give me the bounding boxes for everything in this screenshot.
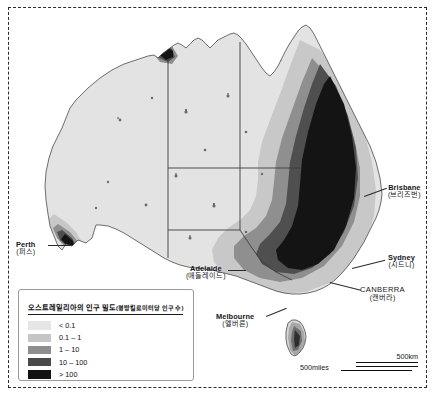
city-label-perth: Perth (퍼스)	[16, 241, 35, 257]
scale-bar-miles	[341, 370, 412, 371]
scale-miles-label: 500miles	[300, 363, 329, 372]
city-name-ko: (브리즈번)	[388, 192, 421, 200]
legend-item: 10 – 100	[28, 356, 185, 368]
legend-swatch	[28, 334, 51, 343]
city-label-adelaide: Adelaide (애들레이드)	[186, 265, 226, 281]
map-legend: 오스트레일리아의 인구 밀도(평방킬로미터당 인구 수) < 0.1 0.1 –…	[18, 289, 194, 381]
legend-title-main: 오스트레일리아의 인구 밀도	[28, 303, 116, 312]
legend-swatch	[28, 346, 51, 355]
population-density-map-figure: Perth (퍼스) Adelaide (애들레이드) Melbourne (멜…	[0, 0, 436, 405]
city-name-ko: (캔버라)	[360, 295, 405, 303]
city-label-sydney: Sydney (시드니)	[388, 254, 415, 270]
map-scale: 500km 500miles	[300, 352, 418, 378]
city-name-ko: (멜버른)	[216, 321, 254, 329]
legend-item: 1 – 10	[28, 344, 185, 356]
city-label-melbourne: Melbourne (멜버른)	[216, 313, 254, 329]
legend-item: > 100	[28, 368, 185, 380]
legend-item: < 0.1	[28, 320, 185, 332]
legend-label: 10 – 100	[59, 358, 87, 367]
legend-label: > 100	[59, 370, 77, 379]
city-label-brisbane: Brisbane (브리즈번)	[388, 184, 421, 200]
leader-line-adelaide	[228, 270, 246, 271]
legend-item: 0.1 – 1	[28, 332, 185, 344]
city-name-ko: (애들레이드)	[186, 273, 226, 281]
legend-label: < 0.1	[59, 321, 75, 330]
city-name-ko: (시드니)	[388, 262, 415, 270]
city-label-canberra: CANBERRA (캔버라)	[360, 286, 405, 302]
legend-swatch	[28, 321, 51, 330]
city-name-ko: (퍼스)	[16, 249, 35, 257]
legend-swatch	[28, 370, 51, 379]
leader-line-perth	[48, 245, 70, 246]
legend-label: 1 – 10	[59, 345, 79, 354]
legend-label: 0.1 – 1	[59, 333, 81, 342]
scale-bar-km	[356, 362, 418, 367]
legend-swatch	[28, 358, 51, 367]
legend-title-unit: (평방킬로미터당 인구 수)	[116, 304, 183, 311]
legend-title: 오스트레일리아의 인구 밀도(평방킬로미터당 인구 수)	[28, 302, 183, 315]
scale-km-label: 500km	[396, 352, 418, 361]
